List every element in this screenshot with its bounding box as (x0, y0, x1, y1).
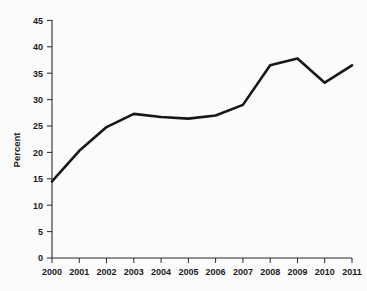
x-tick-label: 2000 (42, 267, 62, 277)
x-tick-label: 2007 (233, 267, 253, 277)
y-tick-label: 25 (33, 121, 43, 131)
y-tick-label: 10 (33, 201, 43, 211)
data-series-line (52, 58, 352, 181)
x-tick-label: 2005 (178, 267, 198, 277)
x-tick-label: 2003 (124, 267, 144, 277)
x-tick-label: 2001 (69, 267, 89, 277)
x-tick-label: 2008 (260, 267, 280, 277)
y-tick-label: 40 (33, 42, 43, 52)
x-axis-tick-labels: 2000 2001 2002 2003 2004 2005 2006 2007 … (42, 267, 362, 277)
x-tick-label: 2006 (206, 267, 226, 277)
y-tick-label: 35 (33, 69, 43, 79)
y-axis-title: Percent (11, 132, 22, 168)
x-tick-label: 2011 (342, 267, 362, 277)
chart-canvas: 0 5 10 15 20 25 30 35 40 45 Percent (0, 0, 367, 291)
y-tick-label: 30 (33, 95, 43, 105)
x-tick-label: 2004 (151, 267, 171, 277)
y-tick-label: 5 (38, 227, 43, 237)
y-axis-tick-labels: 0 5 10 15 20 25 30 35 40 45 (33, 16, 43, 264)
y-tick-label: 15 (33, 174, 43, 184)
y-tick-label: 20 (33, 148, 43, 158)
y-tick-label: 45 (33, 16, 43, 26)
x-tick-label: 2002 (96, 267, 116, 277)
x-tick-label: 2009 (287, 267, 307, 277)
line-chart-figure: 0 5 10 15 20 25 30 35 40 45 Percent (0, 0, 367, 291)
y-tick-label: 0 (38, 253, 43, 263)
x-axis-ticks (52, 258, 352, 263)
x-tick-label: 2010 (315, 267, 335, 277)
y-axis-ticks (47, 20, 52, 258)
